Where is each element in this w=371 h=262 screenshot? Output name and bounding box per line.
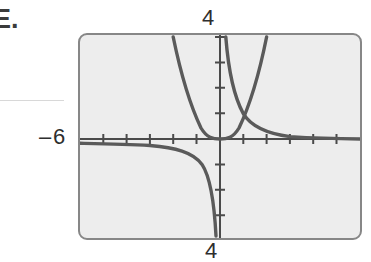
x-min-label: – 6 — [39, 126, 65, 148]
curve-hyperbola-branch-1 — [226, 37, 360, 139]
answer-choice-letter: E. — [0, 6, 19, 33]
graph-plot-window — [78, 33, 362, 240]
y-max-label: 4 — [202, 7, 214, 29]
curve-hyperbola-branch-2 — [80, 143, 216, 236]
y-min-label: 4 — [205, 240, 217, 262]
minus-sign-icon: – — [39, 124, 51, 149]
graph-canvas — [80, 35, 360, 238]
x-min-value: 6 — [53, 124, 65, 149]
scan-artifact-line — [0, 100, 64, 101]
